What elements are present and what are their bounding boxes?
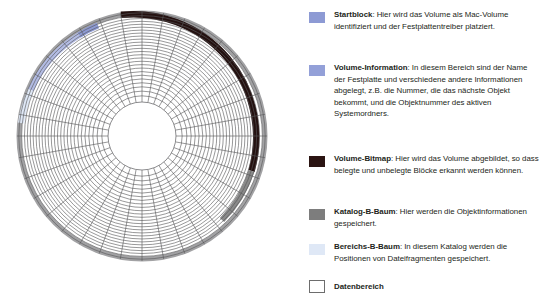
legend-term-katalog-b-baum: Katalog-B-Baum — [334, 207, 396, 216]
legend-item-volume-bitmap: Volume-Bitmap: Hier wird das Volume abge… — [302, 153, 540, 176]
legend-item-startblock: Startblock: Hier wird das Volume als Mac… — [302, 9, 540, 32]
legend-item-katalog-b-baum: Katalog-B-Baum: Hier werden die Objektin… — [302, 206, 540, 229]
platter-svg — [8, 4, 276, 274]
legend-text-datenbereich: Datenbereich — [334, 280, 540, 293]
legend-term-startblock: Startblock — [334, 10, 372, 19]
legend-swatch-datenbereich — [309, 280, 325, 293]
hard-disk-platter-diagram — [8, 4, 276, 274]
legend-text-bereichs-b-baum: Bereichs-B-Baum: In diesem Katalog werde… — [334, 241, 540, 264]
legend-swatch-volume-information — [309, 65, 325, 76]
legend-term-volume-bitmap: Volume-Bitmap — [334, 154, 391, 163]
legend-item-volume-information: Volume-Information: In diesem Bereich si… — [302, 62, 540, 120]
legend-swatch-volume-bitmap — [309, 156, 325, 167]
legend-text-startblock: Startblock: Hier wird das Volume als Mac… — [334, 9, 540, 32]
legend-swatch-startblock — [309, 12, 325, 23]
spindle-hole — [108, 102, 176, 170]
legend: Startblock: Hier wird das Volume als Mac… — [302, 5, 508, 302]
legend-item-datenbereich: Datenbereich — [302, 280, 540, 293]
legend-item-bereichs-b-baum: Bereichs-B-Baum: In diesem Katalog werde… — [302, 241, 540, 264]
legend-term-volume-information: Volume-Information — [334, 63, 408, 72]
legend-term-bereichs-b-baum: Bereichs-B-Baum — [334, 242, 400, 251]
legend-swatch-katalog-b-baum — [309, 209, 325, 220]
legend-text-volume-bitmap: Volume-Bitmap: Hier wird das Volume abge… — [334, 153, 540, 176]
legend-term-datenbereich: Datenbereich — [334, 282, 384, 291]
legend-text-volume-information: Volume-Information: In diesem Bereich si… — [334, 62, 540, 120]
legend-text-katalog-b-baum: Katalog-B-Baum: Hier werden die Objektin… — [334, 206, 540, 229]
legend-swatch-bereichs-b-baum — [309, 244, 325, 255]
